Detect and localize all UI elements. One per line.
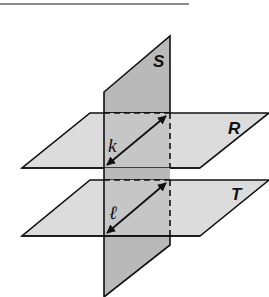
plane-s-upper (104, 36, 170, 113)
label-k: k (108, 135, 117, 156)
planes-diagram: S R T k ℓ (0, 0, 269, 297)
label-t: T (231, 185, 243, 204)
label-s: S (153, 52, 165, 71)
label-l: ℓ (109, 202, 117, 223)
plane-s-lower (104, 236, 170, 297)
label-r: R (228, 119, 241, 138)
plane-s-middle (104, 168, 170, 180)
